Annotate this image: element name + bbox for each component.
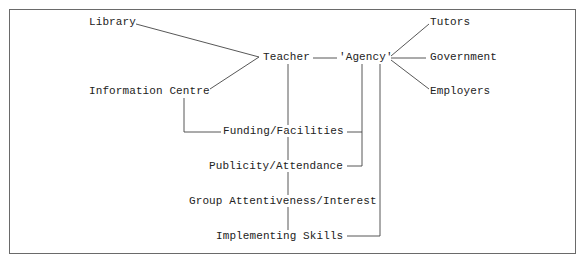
node-government: Government: [430, 51, 497, 63]
edge-agency-implementing: [347, 64, 380, 236]
node-funding-facilities: Funding/Facilities: [223, 125, 344, 137]
edge-agency-tutors: [391, 24, 429, 56]
edge-agency-publicity: [347, 64, 362, 166]
node-group-attentiveness: Group Attentiveness/Interest: [189, 195, 377, 207]
node-teacher: Teacher: [263, 51, 310, 63]
node-employers: Employers: [430, 85, 490, 97]
edge-infocentre-teacher: [210, 57, 259, 89]
node-publicity-attendance: Publicity/Attendance: [209, 160, 343, 172]
node-information-centre: Information Centre: [89, 85, 210, 97]
edge-infocentre-funding: [184, 98, 221, 132]
edge-agency-employers: [391, 60, 429, 89]
node-library: Library: [89, 16, 136, 28]
edge-library-teacher: [136, 24, 259, 57]
node-tutors: Tutors: [430, 16, 470, 28]
node-implementing-skills: Implementing Skills: [216, 230, 343, 242]
node-agency: 'Agency': [339, 51, 393, 63]
